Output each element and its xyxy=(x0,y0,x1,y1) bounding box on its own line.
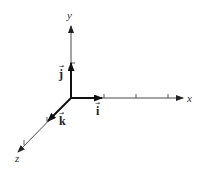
y-axis-label: y xyxy=(66,9,72,21)
x-axis-label: x xyxy=(186,92,192,104)
j-label: j xyxy=(58,67,63,81)
i-arrow-accent: → xyxy=(95,99,100,106)
coordinate-diagram: y x z j → i → k → xyxy=(0,0,206,175)
k-arrow-accent: → xyxy=(59,109,64,116)
j-arrow-accent: → xyxy=(59,62,64,69)
z-ticks xyxy=(24,117,47,145)
k-label: k xyxy=(59,114,66,128)
i-label: i xyxy=(96,104,100,118)
x-ticks xyxy=(104,94,168,98)
z-axis-label: z xyxy=(14,152,20,164)
